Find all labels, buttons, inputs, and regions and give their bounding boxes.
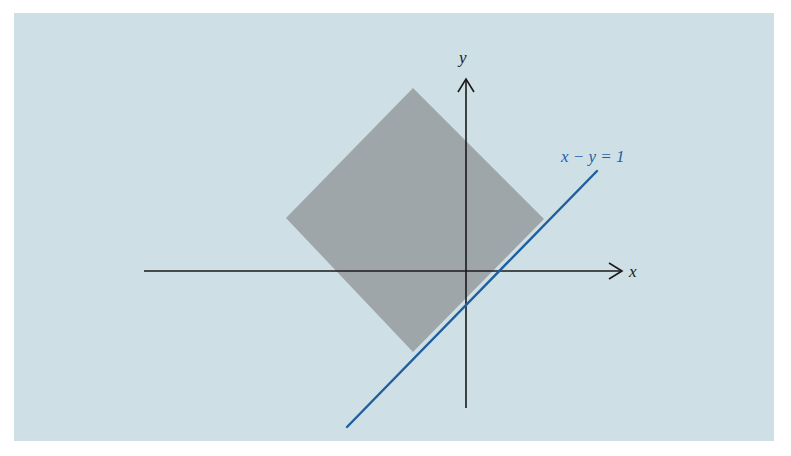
x-axis-label: x <box>628 262 637 281</box>
diagram-canvas: x y x − y = 1 <box>0 0 791 456</box>
y-axis-label: y <box>457 48 467 67</box>
line-equation-label: x − y = 1 <box>560 147 625 166</box>
shaded-region <box>286 88 544 352</box>
